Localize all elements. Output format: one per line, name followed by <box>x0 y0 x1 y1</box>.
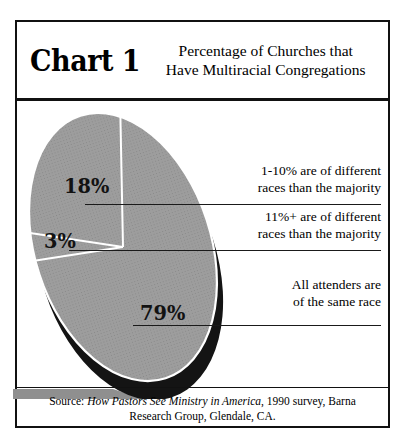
legend-entry-1-line-2: races than the majority <box>177 226 381 243</box>
chart-title-line-1: Percentage of Churches that <box>151 42 380 61</box>
legend-entry-2-line-2: of the same race <box>177 294 381 311</box>
pie-chart-area: 18% 3% 79% 1-10% are of different races … <box>17 101 388 387</box>
chart-header: Chart 1 Percentage of Churches that Have… <box>17 22 388 100</box>
leader-line-2 <box>133 325 381 326</box>
pie-slice-value-0: 18% <box>64 173 109 198</box>
chart-page: Chart 1 Percentage of Churches that Have… <box>0 0 404 444</box>
chart-title: Percentage of Churches that Have Multira… <box>149 42 388 80</box>
source-divider <box>17 387 388 388</box>
legend-entry-0-line-1: 1-10% are of different <box>177 163 381 180</box>
legend-entry-0-line-2: races than the majority <box>177 180 381 197</box>
legend-entry-2: All attenders are of the same race <box>177 277 381 311</box>
chart-title-line-2: Have Multiracial Congregations <box>151 61 380 80</box>
chart-frame: Chart 1 Percentage of Churches that Have… <box>15 20 390 428</box>
legend-entry-1: 11%+ are of different races than the maj… <box>177 209 381 243</box>
leader-line-1 <box>69 250 381 251</box>
source-suffix: , 1990 survey, Barna <box>261 395 356 407</box>
chart-number-label: Chart 1 <box>17 47 140 76</box>
source-line-1: Source: How Pastors See Ministry in Amer… <box>31 394 374 409</box>
legend-entry-0: 1-10% are of different races than the ma… <box>177 163 381 197</box>
legend-entry-1-line-1: 11%+ are of different <box>177 209 381 226</box>
source-citation: Source: How Pastors See Ministry in Amer… <box>17 394 388 424</box>
legend-entry-2-line-1: All attenders are <box>177 277 381 294</box>
source-line-2: Research Group, Glendale, CA. <box>31 409 374 424</box>
source-prefix: Source: <box>49 395 87 407</box>
leader-line-0 <box>85 204 381 205</box>
source-title: How Pastors See Ministry in America <box>87 395 261 407</box>
